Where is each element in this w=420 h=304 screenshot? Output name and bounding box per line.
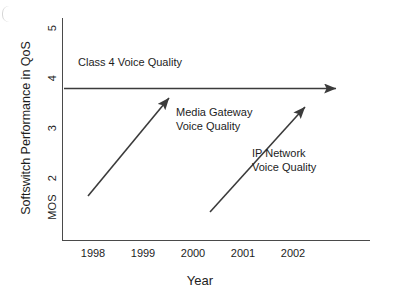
- annotation-ip-network: IP Network Voice Quality: [252, 147, 316, 174]
- qos-performance-chart: 5 4 3 2 MOS Softswitch Performance in Qo…: [0, 0, 420, 304]
- series-arrows: [0, 0, 420, 304]
- series-arrow-media-gateway: [88, 98, 169, 196]
- annotation-media-gateway: Media Gateway Voice Quality: [176, 106, 252, 133]
- annotation-class4: Class 4 Voice Quality: [78, 56, 182, 70]
